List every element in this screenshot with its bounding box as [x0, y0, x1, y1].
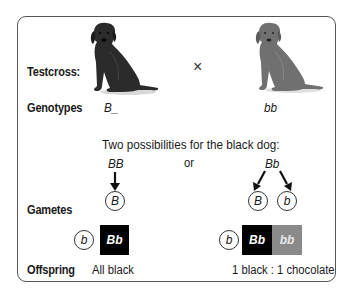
bb-heterozygous-genotype: Bb: [265, 156, 279, 171]
cross-symbol: ×: [193, 58, 202, 76]
offspring-cell-black: Bb: [100, 225, 129, 255]
arrow-down-left-icon: [252, 170, 268, 192]
offspring-cell-chocolate: bb: [272, 225, 302, 255]
tester-gamete-circle: b: [74, 230, 94, 250]
tester-gamete-circle: b: [219, 230, 239, 250]
gamete-circle: B: [248, 191, 268, 211]
arrow-down-right-icon: [277, 170, 293, 192]
genotypes-label: Genotypes: [27, 101, 82, 115]
chocolate-labrador-icon: [247, 22, 329, 94]
black-dog-genotype: B_: [104, 100, 118, 115]
offspring-cell-black: Bb: [242, 225, 272, 255]
offspring-label: Offspring: [27, 263, 75, 277]
bb-homozygous-genotype: BB: [108, 156, 124, 171]
gamete-circle: B: [105, 191, 125, 211]
black-labrador-icon: [80, 22, 162, 96]
testcross-label: Testcross:: [27, 65, 80, 79]
or-label: or: [184, 156, 194, 170]
possibilities-heading: Two possibilities for the black dog:: [102, 137, 280, 152]
gametes-label: Gametes: [27, 203, 72, 217]
gamete-circle: b: [277, 191, 297, 211]
offspring-result-homozygous: All black: [92, 263, 134, 277]
offspring-result-heterozygous: 1 black : 1 chocolate: [232, 263, 335, 277]
chocolate-dog-genotype: bb: [264, 100, 277, 115]
arrow-down-icon: [109, 172, 121, 192]
